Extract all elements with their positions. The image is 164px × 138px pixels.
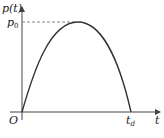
- y-axis-label: p(t): [2, 2, 22, 15]
- pressure-pulse-diagram: p(t) p0 O td t: [0, 0, 164, 138]
- end-time-label: td: [126, 114, 135, 128]
- peak-value-label: p0: [7, 16, 19, 30]
- origin-label: O: [9, 114, 18, 127]
- x-axis-label: t: [155, 114, 160, 127]
- pulse-curve: [22, 22, 131, 112]
